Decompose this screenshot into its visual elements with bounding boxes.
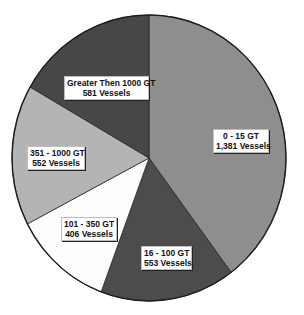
slice-category: 351 - 1000 GT [30,148,82,158]
slice-category: 16 - 100 GT [144,248,189,258]
slice-count: 552 Vessels [30,158,82,168]
slice-label-101-350-gt: 101 - 350 GT 406 Vessels [61,217,117,241]
slice-label-351-1000-gt: 351 - 1000 GT 552 Vessels [27,146,85,170]
slice-category: Greater Then 1000 GT [67,78,146,88]
slice-label-greater-than-1000-gt: Greater Then 1000 GT 581 Vessels [64,76,149,100]
slice-label-0-15-gt: 0 - 15 GT 1,381 Vessels [213,129,269,153]
slice-count: 581 Vessels [67,88,146,98]
slice-count: 406 Vessels [64,229,114,239]
slice-label-16-100-gt: 16 - 100 GT 553 Vessels [141,246,192,270]
slice-count: 1,381 Vessels [216,141,266,151]
slice-category: 101 - 350 GT [64,219,114,229]
slice-category: 0 - 15 GT [216,131,266,141]
slice-count: 553 Vessels [144,258,189,268]
